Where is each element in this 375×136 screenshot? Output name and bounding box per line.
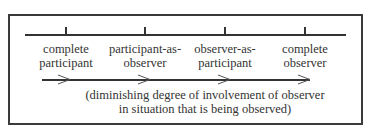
stage-complete-observer: complete observer <box>260 42 350 70</box>
stage-label-line2: participant <box>21 56 111 70</box>
stage-label-line2: observer <box>100 56 190 70</box>
stage-label-line2: participant <box>180 56 270 70</box>
stage-participant-as-observer: participant-as- observer <box>100 42 190 70</box>
caption-line1: (diminishing degree of involvement of ob… <box>60 88 350 102</box>
stage-observer-as-participant: observer-as- participant <box>180 42 270 70</box>
caption-line2: in situation that is being observed) <box>60 102 350 116</box>
stage-complete-participant: complete participant <box>21 42 111 70</box>
stage-label-line1: observer-as- <box>180 42 270 56</box>
stage-label-line1: participant-as- <box>100 42 190 56</box>
stage-label-line2: observer <box>260 56 350 70</box>
continuum-caption: (diminishing degree of involvement of ob… <box>60 88 350 116</box>
stage-label-line1: complete <box>21 42 111 56</box>
stage-label-line1: complete <box>260 42 350 56</box>
